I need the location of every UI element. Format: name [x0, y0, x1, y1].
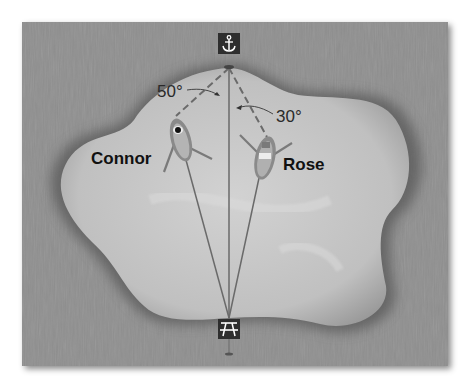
picnic-table-icon — [218, 319, 240, 339]
boat-label-connor: Connor — [91, 149, 152, 168]
angle-label-left: 50° — [157, 82, 183, 101]
lake-diagram: 50° 30° Connor Rose — [0, 0, 475, 386]
boat-label-rose: Rose — [283, 155, 325, 174]
angle-label-right: 30° — [276, 107, 302, 126]
anchor-icon — [218, 33, 240, 54]
